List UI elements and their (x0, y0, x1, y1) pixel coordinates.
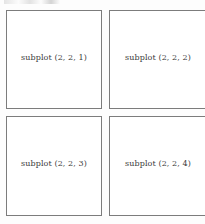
subplot-label-4: subplot (2, 2, 4) (125, 160, 191, 168)
subplot-axes-2[interactable]: subplot (2, 2, 2) (109, 10, 205, 109)
subplot-axes-4[interactable]: subplot (2, 2, 4) (109, 116, 205, 216)
subplot-label-1: subplot (2, 2, 1) (21, 54, 87, 62)
subplot-label-2: subplot (2, 2, 2) (125, 54, 191, 62)
subplot-axes-3[interactable]: subplot (2, 2, 3) (6, 116, 102, 216)
subplot-label-3: subplot (2, 2, 3) (21, 160, 87, 168)
subplot-axes-1[interactable]: subplot (2, 2, 1) (6, 10, 102, 109)
figure-canvas: subplot (2, 2, 1) subplot (2, 2, 2) subp… (0, 0, 205, 224)
top-clip-artifact (4, 0, 60, 4)
